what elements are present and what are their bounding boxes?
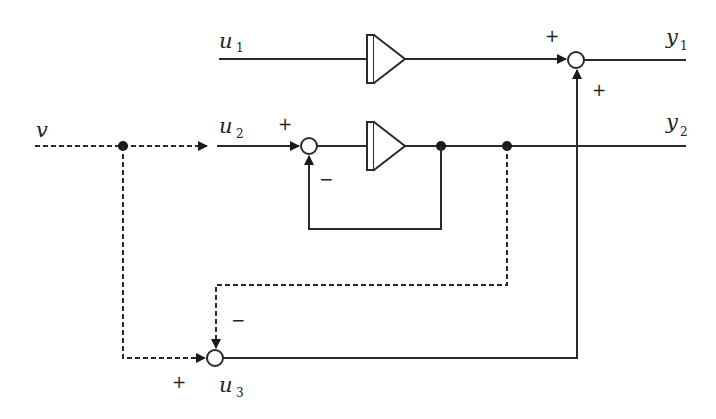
v-to-sum3-wire xyxy=(123,146,205,358)
svg-text:1: 1 xyxy=(680,39,688,53)
sign-sum3-left: + xyxy=(172,372,186,392)
integrator-1-icon xyxy=(367,35,405,83)
svg-text:u: u xyxy=(219,29,233,53)
label-u3: u 3 xyxy=(219,373,244,400)
sign-sum2-bottom: − xyxy=(319,169,333,189)
svg-text:2: 2 xyxy=(680,125,688,139)
u1-path xyxy=(219,35,686,83)
label-u1: u 1 xyxy=(219,29,244,55)
svg-text:3: 3 xyxy=(236,386,244,400)
u3-wire xyxy=(223,70,577,358)
svg-text:y: y xyxy=(665,110,679,134)
u3-path xyxy=(123,70,577,366)
summing-junction-2 xyxy=(301,138,317,154)
summing-junction-3 xyxy=(207,350,223,366)
u2-path xyxy=(35,122,686,229)
label-y1: y 1 xyxy=(665,25,688,53)
y2-to-sum3-wire xyxy=(216,146,507,348)
sign-sum1-left: + xyxy=(545,26,559,46)
svg-text:u: u xyxy=(219,373,233,397)
block-diagram: v u 1 u 2 u 3 y 1 y 2 + + + − + − xyxy=(0,0,716,419)
label-u2: u 2 xyxy=(219,114,244,141)
sign-sum3-top: − xyxy=(231,310,245,330)
svg-text:1: 1 xyxy=(236,41,244,55)
svg-text:y: y xyxy=(665,25,679,49)
summing-junction-1 xyxy=(568,52,584,68)
label-v: v xyxy=(36,118,48,142)
sign-sum1-bottom: + xyxy=(592,80,606,100)
sign-sum2-left: + xyxy=(278,114,292,134)
svg-text:u: u xyxy=(219,114,233,138)
integrator-2-icon xyxy=(367,122,405,170)
label-y2: y 2 xyxy=(665,110,688,139)
svg-text:2: 2 xyxy=(236,127,244,141)
